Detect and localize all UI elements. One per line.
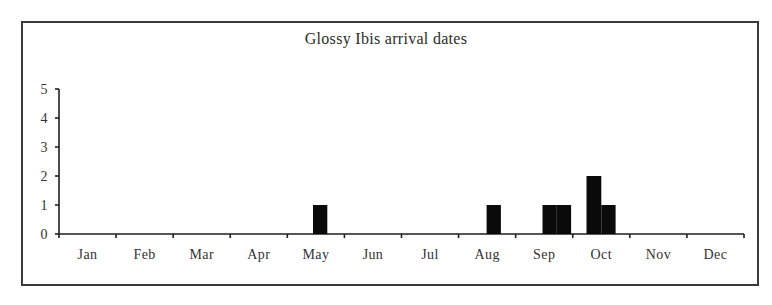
x-tick-label-may: May — [302, 247, 329, 262]
y-tick-label: 1 — [41, 198, 48, 213]
bar-sep — [557, 205, 571, 234]
x-tick-label-oct: Oct — [591, 247, 612, 262]
x-tick-label-mar: Mar — [189, 247, 214, 262]
bar-oct — [587, 176, 602, 234]
x-tick-label-nov: Nov — [646, 247, 671, 262]
y-tick-label: 5 — [41, 82, 48, 97]
x-tick-label-apr: Apr — [247, 247, 270, 262]
y-tick-label: 3 — [41, 140, 48, 155]
x-tick-label-dec: Dec — [704, 247, 728, 262]
x-tick-label-jan: Jan — [78, 247, 98, 262]
bar-may — [313, 205, 327, 234]
bar-aug — [487, 205, 501, 234]
y-axis: 012345 — [41, 82, 60, 242]
x-axis: JanFebMarAprMayJunJulAugSepOctNovDec — [59, 234, 744, 262]
bar-series — [313, 176, 616, 234]
bar-chart-plot: 012345 JanFebMarAprMayJunJulAugSepOctNov… — [0, 0, 772, 305]
bar-oct — [601, 205, 615, 234]
x-tick-label-jul: Jul — [421, 247, 439, 262]
y-tick-label: 0 — [41, 227, 48, 242]
x-tick-label-jun: Jun — [363, 247, 384, 262]
y-tick-label: 4 — [41, 111, 48, 126]
y-tick-label: 2 — [41, 169, 48, 184]
x-tick-label-aug: Aug — [474, 247, 499, 262]
x-tick-label-sep: Sep — [533, 247, 555, 262]
bar-sep — [543, 205, 557, 234]
x-tick-label-feb: Feb — [134, 247, 156, 262]
